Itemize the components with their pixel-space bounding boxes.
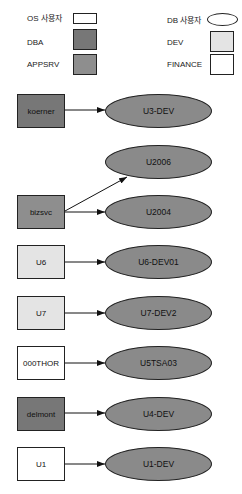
- os-user-000thor: 000THOR: [17, 346, 65, 380]
- os-user-koerner: koerner: [17, 94, 65, 128]
- os-user-delmont: delmont: [17, 397, 65, 431]
- db-user-u6-dev01: U6-DEV01: [105, 245, 212, 279]
- os-user-u6: U6: [17, 245, 65, 279]
- os-user-u1: U1: [17, 447, 65, 481]
- db-user-u5tsa03: U5TSA03: [105, 346, 212, 380]
- db-user-u2004: U2004: [105, 195, 212, 229]
- db-user-u4-dev: U4-DEV: [105, 397, 212, 431]
- os-user-bizsvc: bizsvc: [17, 195, 65, 229]
- db-user-u3-dev: U3-DEV: [105, 94, 212, 128]
- db-user-u2006: U2006: [105, 145, 212, 179]
- db-user-u1-dev: U1-DEV: [105, 447, 212, 481]
- os-user-u7: U7: [17, 296, 65, 330]
- db-user-u7-dev2: U7-DEV2: [105, 296, 212, 330]
